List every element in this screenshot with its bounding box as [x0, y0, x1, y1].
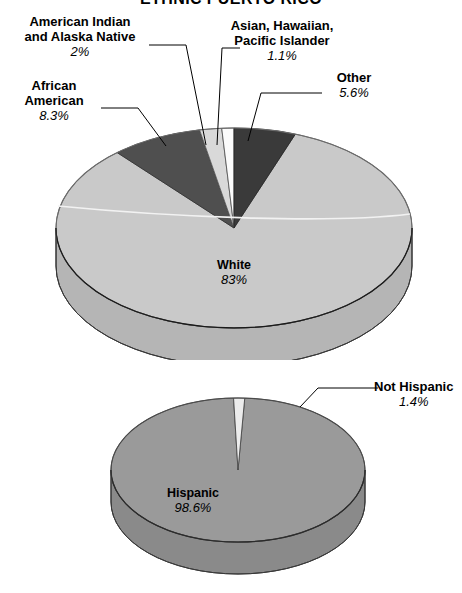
callout-african-american-line2: American	[24, 93, 83, 108]
pie1-white-pct: 83%	[184, 272, 284, 288]
pie2-hispanic-pct: 98.6%	[138, 500, 248, 516]
callout-other: Other 5.6%	[318, 70, 390, 101]
callout-asian-line1: Asian, Hawaiian,	[231, 18, 334, 33]
pie1-top-face	[56, 128, 412, 328]
pie2-leader-lines	[300, 388, 378, 407]
callout-other-line1: Other	[337, 70, 372, 85]
callout-other-pct: 5.6%	[318, 85, 390, 101]
pie2-inside-label-hispanic: Hispanic 98.6%	[138, 486, 248, 516]
callout-african-american-pct: 8.3%	[8, 108, 100, 124]
pie1-inside-label-white: White 83%	[184, 258, 284, 288]
callout-african-american: African American 8.3%	[8, 78, 100, 124]
pie2-hispanic-label: Hispanic	[167, 486, 219, 500]
pie1-white-label: White	[217, 258, 251, 272]
callout-not-hispanic: Not Hispanic 1.4%	[374, 379, 453, 410]
callout-asian-line2: Pacific Islander	[234, 33, 329, 48]
callout-african-american-line1: African	[32, 78, 77, 93]
callout-american-indian-line2: and Alaska Native	[25, 29, 136, 44]
callout-american-indian: American Indian and Alaska Native 2%	[10, 14, 150, 60]
chart-canvas: ETHNIC PUERTO RICO	[0, 0, 462, 593]
callout-not-hispanic-line1: Not Hispanic	[374, 379, 453, 394]
callout-american-indian-pct: 2%	[10, 44, 150, 60]
callout-asian-pct: 1.1%	[212, 48, 352, 64]
callout-not-hispanic-pct: 1.4%	[374, 394, 453, 410]
callout-american-indian-line1: American Indian	[29, 14, 130, 29]
callout-asian-hawaiian-pi: Asian, Hawaiian, Pacific Islander 1.1%	[212, 18, 352, 64]
pie2-top-face	[111, 398, 365, 542]
